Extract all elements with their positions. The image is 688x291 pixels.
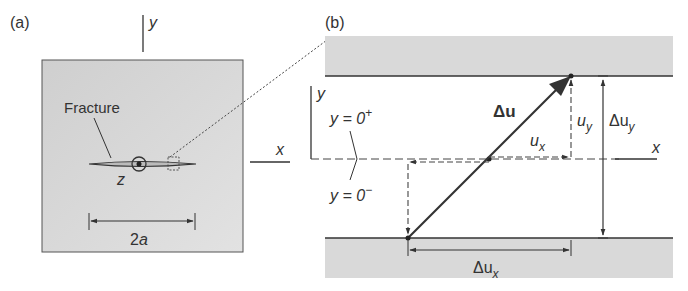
upper-point-dot: [569, 74, 574, 79]
panel-b-y-label: y: [316, 85, 326, 102]
panel-b-label: (b): [325, 14, 345, 31]
panel-a-y-label: y: [148, 14, 158, 31]
upper-block: [325, 36, 673, 76]
panel-b-x-label: x: [651, 139, 661, 156]
delta-u-label: Δu: [493, 102, 516, 121]
panel-a-z-label: z: [116, 171, 125, 188]
fracture-shape: [89, 162, 196, 167]
delta-u-vector: [408, 78, 568, 238]
ux-label: ux: [530, 132, 546, 154]
fracture-displacement-diagram: (a) y x Fracture z 2a (b): [0, 0, 688, 291]
z-axis-dot-icon: [137, 162, 142, 167]
panel-a: (a) y x Fracture z 2a: [10, 14, 327, 252]
panel-a-plate: [42, 60, 243, 252]
crack-length-label: 2a: [130, 231, 148, 248]
fracture-label: Fracture: [64, 99, 120, 116]
y-zero-minus-label: y = 0−: [329, 183, 372, 204]
uy-label: uy: [577, 112, 593, 134]
delta-uy-label: Δuy: [609, 112, 636, 134]
panel-a-x-label: x: [275, 141, 285, 158]
lower-point-dot: [406, 236, 411, 241]
panel-a-label: (a): [10, 14, 30, 31]
y-zero-plus-label: y = 0+: [329, 106, 372, 127]
lower-block: [325, 238, 673, 278]
panel-b: (b) y x y = 0+ y = 0− Δu ux uy: [311, 14, 673, 281]
y-zero-leader: [350, 131, 357, 180]
